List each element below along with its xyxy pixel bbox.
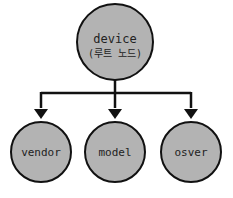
arrow-down-icon [108, 109, 122, 119]
child-node-osver: osver [161, 122, 221, 182]
arrow-down-icon [184, 109, 198, 119]
child-node-model: model [85, 122, 145, 182]
root-node-sublabel: (루트 노드) [88, 48, 142, 59]
root-node-label: device [93, 32, 136, 46]
arrowheads [34, 109, 198, 119]
child-node-vendor: vendor [11, 122, 71, 182]
root-node: device (루트 노드) [77, 4, 153, 80]
tree-diagram: device (루트 노드) vendor model osver [0, 0, 233, 198]
arrow-down-icon [34, 109, 48, 119]
child-node-label: model [98, 146, 131, 159]
connectors [41, 80, 191, 108]
child-node-label: osver [174, 146, 207, 159]
child-node-label: vendor [21, 146, 61, 159]
